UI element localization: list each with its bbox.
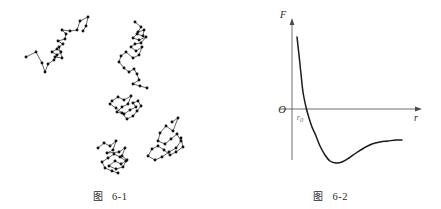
brownian-vertex-dot bbox=[127, 103, 130, 106]
brownian-vertex-dot bbox=[109, 145, 112, 148]
brownian-vertex-dot bbox=[165, 125, 168, 128]
brownian-vertex-dot bbox=[76, 29, 79, 32]
brownian-vertex-dot bbox=[115, 168, 118, 171]
brownian-vertex-dot bbox=[136, 33, 139, 36]
figure-6-2-caption: 图6-2 bbox=[220, 188, 441, 203]
brownian-vertex-dot bbox=[120, 55, 123, 58]
brownian-vertex-dot bbox=[51, 51, 54, 54]
brownian-vertex-dot bbox=[58, 46, 61, 49]
x-axis-arrowhead bbox=[415, 107, 422, 112]
caption-number: 6-2 bbox=[333, 191, 349, 202]
brownian-vertex-dot bbox=[123, 67, 126, 70]
brownian-vertex-dot bbox=[122, 166, 125, 169]
brownian-vertex-dot bbox=[82, 30, 85, 33]
brownian-vertex-dot bbox=[154, 159, 157, 162]
brownian-vertex-dot bbox=[25, 56, 28, 59]
brownian-vertex-dot bbox=[41, 62, 44, 65]
brownian-vertex-dot bbox=[113, 153, 116, 156]
brownian-vertex-dot bbox=[117, 96, 120, 99]
brownian-vertex-dot bbox=[115, 107, 118, 110]
brownian-vertex-dot bbox=[126, 118, 129, 121]
brownian-vertex-dot bbox=[140, 105, 143, 108]
brownian-vertex-dot bbox=[175, 147, 178, 150]
brownian-vertex-dot bbox=[117, 172, 120, 175]
brownian-vertex-dot bbox=[132, 37, 135, 40]
brownian-trace-line bbox=[119, 22, 147, 88]
brownian-vertex-dot bbox=[101, 161, 104, 164]
brownian-vertex-dot bbox=[116, 111, 119, 114]
force-curve-path bbox=[297, 37, 402, 163]
brownian-vertex-dot bbox=[57, 40, 60, 43]
brownian-vertex-dot bbox=[135, 50, 138, 53]
brownian-vertex-dot bbox=[118, 61, 121, 64]
brownian-trace-group bbox=[25, 16, 185, 175]
brownian-vertex-dot bbox=[140, 26, 143, 29]
brownian-vertex-dot bbox=[136, 110, 139, 113]
brownian-vertex-dot bbox=[47, 63, 50, 66]
brownian-vertex-dot bbox=[108, 165, 111, 168]
brownian-motion-plot bbox=[0, 0, 220, 185]
brownian-vertex-dot bbox=[164, 143, 167, 146]
brownian-vertex-dot bbox=[135, 106, 138, 109]
brownian-vertex-dot bbox=[180, 137, 183, 140]
brownian-vertex-dot bbox=[163, 149, 166, 152]
brownian-vertex-dot bbox=[175, 151, 178, 154]
x-axis-label: r bbox=[414, 112, 418, 123]
brownian-vertex-dot bbox=[180, 140, 183, 143]
brownian-vertex-dot bbox=[168, 151, 171, 154]
brownian-vertex-dot bbox=[62, 43, 65, 46]
brownian-vertex-dot bbox=[142, 35, 145, 38]
brownian-vertex-dot bbox=[129, 109, 132, 112]
brownian-vertex-dot bbox=[147, 155, 150, 158]
brownian-vertex-dot bbox=[125, 51, 128, 54]
brownian-vertex-dot bbox=[139, 85, 142, 88]
brownian-vertex-dot bbox=[121, 112, 124, 115]
brownian-trace-line bbox=[26, 17, 88, 72]
brownian-vertex-dot bbox=[111, 170, 114, 173]
brownian-vertex-dot bbox=[182, 146, 185, 149]
origin-label: O bbox=[278, 104, 286, 115]
brownian-vertex-dot bbox=[60, 51, 63, 54]
brownian-vertex-dot bbox=[137, 100, 140, 103]
brownian-vertex-dot bbox=[132, 57, 135, 60]
figure-page: 图6-1 F r O r0 图6-2 bbox=[0, 0, 441, 209]
brownian-vertex-dot bbox=[121, 106, 124, 109]
brownian-vertex-dot bbox=[54, 56, 57, 59]
brownian-vertex-dot bbox=[140, 42, 143, 45]
brownian-vertex-dot bbox=[111, 100, 114, 103]
brownian-vertex-dot bbox=[119, 156, 122, 159]
brownian-trace-line bbox=[148, 118, 183, 160]
brownian-vertex-dot bbox=[138, 39, 141, 42]
figure-force-curve: F r O r0 图6-2 bbox=[220, 0, 441, 209]
brownian-vertex-dot bbox=[136, 73, 139, 76]
brownian-vertex-dot bbox=[132, 102, 135, 105]
brownian-vertex-dot bbox=[69, 30, 72, 33]
figure-brownian-motion: 图6-1 bbox=[0, 0, 220, 209]
equilibrium-subscript: 0 bbox=[300, 116, 304, 123]
brownian-vertex-dot bbox=[177, 117, 180, 120]
brownian-vertex-dot bbox=[120, 163, 123, 166]
brownian-vertex-dot bbox=[112, 149, 115, 152]
y-axis-arrowhead bbox=[290, 18, 295, 25]
brownian-vertex-dot bbox=[141, 46, 144, 49]
force-curve-plot: F r O r0 bbox=[220, 0, 441, 185]
brownian-vertex-dot bbox=[61, 57, 64, 60]
figure-6-1-caption: 图6-1 bbox=[0, 188, 220, 203]
caption-cjk-label: 图 bbox=[93, 191, 104, 202]
brownian-vertex-dot bbox=[138, 54, 141, 57]
brownian-vertex-dot bbox=[132, 115, 135, 118]
brownian-vertex-dot bbox=[118, 151, 121, 154]
brownian-vertex-dot bbox=[87, 16, 90, 19]
brownian-vertex-dot bbox=[64, 38, 67, 41]
brownian-vertex-dot bbox=[109, 103, 112, 106]
brownian-vertex-dot bbox=[176, 133, 179, 136]
y-axis-label: F bbox=[279, 9, 287, 20]
brownian-vertex-dot bbox=[128, 71, 131, 74]
brownian-vertex-dot bbox=[85, 25, 88, 28]
brownian-vertex-dot bbox=[61, 29, 64, 32]
brownian-vertex-dot bbox=[65, 33, 68, 36]
brownian-vertex-dot bbox=[157, 140, 160, 143]
brownian-vertex-dot bbox=[134, 21, 137, 24]
equilibrium-point-label: r0 bbox=[297, 112, 304, 123]
brownian-vertex-dot bbox=[151, 148, 154, 151]
